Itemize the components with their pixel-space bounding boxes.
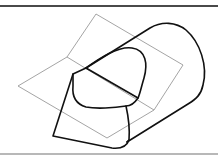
geometry-drawing [0,0,218,162]
intersection-loop [73,48,146,108]
plane-fold-line [67,57,154,110]
cylinder-silhouette [86,23,204,142]
intersection-curve [73,48,146,108]
diagonal-section-line [86,68,138,98]
figure-frame [0,0,218,162]
cylinder-body [53,23,204,148]
plane-upper-facet [67,14,183,110]
